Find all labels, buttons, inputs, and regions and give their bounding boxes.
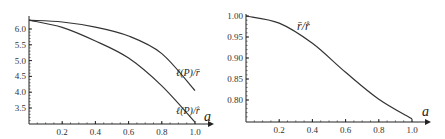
curve-l-over-rring [29, 20, 195, 122]
left-plot: 3.54.04.55.05.56.0 0.20.40.60.81.0 ℓ(P)/… [15, 16, 214, 137]
y-tick-label: 5.0 [15, 56, 27, 66]
y-tick-label: 0.90 [227, 53, 243, 63]
right-x-arrow-icon [425, 119, 431, 125]
left-x-axis-label: a [204, 109, 211, 124]
x-tick-label: 0.8 [156, 127, 168, 137]
curve-rbar-over-rring [246, 16, 412, 119]
left-x-ticks: 0.20.40.60.81.0 [37, 121, 201, 137]
x-tick-label: 1.0 [189, 127, 201, 137]
y-tick-label: 0.85 [227, 74, 243, 84]
figure: 3.54.04.55.05.56.0 0.20.40.60.81.0 ℓ(P)/… [0, 0, 445, 139]
y-tick-label: 1.00 [227, 11, 243, 21]
x-tick-label: 0.2 [57, 127, 68, 137]
curve-l-over-rbar [29, 20, 195, 90]
x-tick-label: 0.4 [90, 127, 102, 137]
x-tick-label: 1.0 [406, 125, 418, 135]
label-l-over-rring: ℓ(P)/r̊ [176, 105, 200, 117]
right-plot: 0.800.850.900.951.00 0.20.40.60.81.0 r̄/… [227, 11, 431, 135]
label-l-over-rbar: ℓ(P)/r̄ [176, 67, 200, 79]
y-tick-label: 4.5 [15, 71, 27, 81]
x-tick-label: 0.4 [307, 125, 319, 135]
y-tick-label: 6.0 [15, 24, 27, 34]
x-tick-label: 0.6 [340, 125, 352, 135]
x-tick-label: 0.2 [274, 125, 285, 135]
y-tick-label: 0.95 [227, 32, 243, 42]
label-rbar-over-rring: r̄/r̊ [297, 19, 310, 33]
x-tick-label: 0.8 [373, 125, 385, 135]
x-tick-label: 0.6 [123, 127, 135, 137]
right-x-ticks: 0.20.40.60.81.0 [254, 119, 418, 135]
y-tick-label: 5.5 [15, 40, 27, 50]
y-tick-label: 3.5 [15, 103, 27, 113]
charts-canvas: 3.54.04.55.05.56.0 0.20.40.60.81.0 ℓ(P)/… [0, 0, 445, 139]
y-tick-label: 0.80 [227, 95, 243, 105]
right-x-axis-label: a [422, 104, 429, 119]
y-tick-label: 4.0 [15, 87, 27, 97]
